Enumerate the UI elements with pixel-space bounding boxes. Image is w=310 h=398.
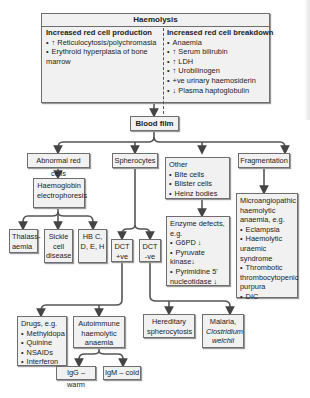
hereditary-spherocytosis-box: Hereditary spherocytosis [143,314,195,338]
aiha-label: Autoimmune haemolytic anaemia [78,319,120,347]
breakdown-column: Increased red cell breakdown Anaemia ↑ S… [167,28,309,95]
breakdown-title: Increased red cell breakdown [167,28,309,38]
enzyme-defects-box: Enzyme defects, e.g. G6PD ↓ Pyruvate kin… [166,216,230,286]
production-item: Erythroid hyperplasia of bone marrow [46,47,160,66]
dct-positive-box: DCT +ve [111,239,133,262]
enzyme-item: Pyruvate kinase↓ [170,248,226,267]
hb-cdeh-box: HB C, D, E, H [78,229,107,263]
production-column: Increased red cell production ↑ Reticulo… [46,28,160,66]
production-title: Increased red cell production [46,28,160,38]
enzyme-item: Pyrimidine 5' nucleotidase ↓ [170,267,226,286]
haemolysis-title: Haemolysis [42,14,269,27]
breakdown-item: ↑ Serum bilirubin [167,47,309,57]
hereditary-spherocytosis-label: Hereditary spherocytosis [147,317,192,336]
drugs-title: Drugs, e.g. [21,319,63,329]
sickle-cell-box: Sickle cell disease [44,229,73,263]
mah-item: Haemolytic uraemic syndrome [240,234,294,263]
abnormal-red-cells-box: Abnormal red cells [27,153,90,168]
breakdown-item: ↓ Plasma haptoglobulin [167,86,309,96]
drug-item: Quinine [21,338,63,348]
microangiopathic-box: Microangiopathic haemolytic anaemia, e.g… [236,193,298,298]
blood-film-label: Blood film [135,119,173,128]
sickle-cell-label: Sickle cell disease [46,232,71,260]
dct-negative-label: DCT -ve [142,242,157,261]
other-item: Heinz bodies [169,189,226,199]
drug-item: NSAIDs [21,348,63,358]
breakdown-item: ↑ Urobilinogen [167,66,309,76]
mah-title: Microangiopathic haemolytic anaemia, e.g… [240,196,294,225]
malaria-box: Malaria, Clostridium welchii [202,314,244,348]
drugs-box: Drugs, e.g. Methyldopa Quinine NSAIDs In… [17,316,67,366]
dct-negative-box: DCT -ve [139,239,161,262]
other-item: Bite cells [169,170,226,180]
breakdown-item: +ve urinary haemosiderin [167,76,309,86]
igg-warm-box: IgG – warm [56,366,96,380]
other-title: Other [169,160,226,170]
spherocytes-box: Spherocytes [112,153,158,168]
column-divider [163,28,164,114]
mah-item: Eclampsia [240,225,294,235]
malaria-label: Malaria, [206,317,240,327]
igg-warm-label: IgG – warm [67,368,85,389]
other-item: Blister cells [169,179,226,189]
enzyme-title: Enzyme defects, e.g. [170,219,226,238]
mah-item: Thrombotic thrombocytopenic purpura [240,263,294,292]
production-item: ↑ Reticulocytosis/polychromasia [46,38,160,48]
other-box: Other Bite cells Blister cells Heinz bod… [165,157,230,199]
thalassaemia-label: Thalass-aemia [12,232,40,251]
breakdown-item: Anaemia [167,38,309,48]
spherocytes-label: Spherocytes [114,156,155,165]
hb-electrophoresis-label: Haemoglobin electrophoresis [37,181,87,200]
breakdown-item: ↑ LDH [167,57,309,67]
igm-cold-label: IgM – cold [105,368,139,377]
hb-electrophoresis-box: Haemoglobin electrophoresis [33,178,85,208]
thalassaemia-box: Thalass-aemia [9,229,38,253]
enzyme-item: G6PD ↓ [170,238,226,248]
clostridium-label: Clostridium welchii [206,327,240,346]
fragmentation-label: Fragmentation [240,156,288,165]
blood-film-box: Blood film [130,116,179,131]
igm-cold-box: IgM – cold [103,366,141,380]
mah-item: DIC [240,292,294,302]
drug-item: Methyldopa [21,329,63,339]
aiha-box: Autoimmune haemolytic anaemia [73,316,125,348]
hb-cdeh-label: HB C, D, E, H [81,232,105,251]
dct-positive-label: DCT +ve [114,242,129,261]
haemolysis-box: Haemolysis Increased red cell production… [41,13,270,103]
fragmentation-box: Fragmentation [238,153,290,168]
